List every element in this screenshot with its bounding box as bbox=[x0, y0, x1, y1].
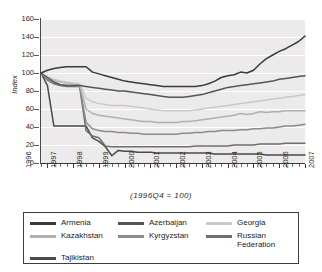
x-tick-minor bbox=[221, 164, 222, 167]
y-tick bbox=[34, 37, 39, 38]
y-tick-label-wrap: 160 bbox=[8, 15, 34, 23]
legend-label: Kyrgyzstan bbox=[149, 231, 189, 241]
legend-swatch-icon bbox=[206, 235, 232, 238]
y-tick bbox=[34, 127, 39, 128]
legend-swatch-icon bbox=[30, 222, 56, 225]
y-axis-line bbox=[40, 18, 41, 164]
x-tick-label: 1998 bbox=[76, 151, 84, 168]
y-tick-label-wrap: 140 bbox=[8, 33, 34, 41]
x-tick-label: 2000 bbox=[128, 151, 136, 168]
x-tick-minor bbox=[60, 164, 61, 167]
series-line bbox=[41, 73, 305, 147]
legend-label: Tajikistan bbox=[61, 253, 94, 263]
chart-plot-container: 020406080100120140160 Index 199619971998… bbox=[0, 0, 322, 205]
x-tick-label: 1997 bbox=[50, 151, 58, 168]
chart-legend: ArmeniaAzerbaijanGeorgiaKazakhstanKyrgyz… bbox=[23, 212, 299, 264]
y-tick bbox=[34, 163, 39, 164]
legend-item[interactable]: Armenia bbox=[30, 218, 118, 228]
x-tick-label: 1996 bbox=[25, 151, 33, 168]
x-tick-minor bbox=[86, 164, 87, 167]
legend-grid: ArmeniaAzerbaijanGeorgiaKazakhstanKyrgyz… bbox=[30, 218, 296, 265]
y-tick-label: 160 bbox=[10, 15, 34, 23]
y-axis-title: Index bbox=[10, 65, 19, 105]
x-tick-label: 2007 bbox=[308, 151, 316, 168]
y-tick-label-wrap: 20 bbox=[8, 141, 34, 149]
y-tick-label: 20 bbox=[10, 141, 34, 149]
x-tick-minor bbox=[163, 164, 164, 167]
x-tick-label: 1999 bbox=[102, 151, 110, 168]
legend-item[interactable]: Georgia bbox=[206, 218, 294, 228]
x-tick-minor bbox=[138, 164, 139, 167]
y-tick-label: 140 bbox=[10, 33, 34, 41]
x-tick-label: 2005 bbox=[256, 151, 264, 168]
y-tick bbox=[34, 109, 39, 110]
x-tick-minor bbox=[189, 164, 190, 167]
x-tick-minor bbox=[241, 164, 242, 167]
x-tick-minor bbox=[266, 164, 267, 167]
legend-item[interactable]: Kyrgyzstan bbox=[118, 231, 206, 250]
x-tick-minor bbox=[247, 164, 248, 167]
x-tick-minor bbox=[299, 164, 300, 167]
x-tick-minor bbox=[112, 164, 113, 167]
x-tick-minor bbox=[144, 164, 145, 167]
legend-row: KazakhstanKyrgyzstanRussianFederation bbox=[30, 231, 296, 253]
y-tick bbox=[34, 145, 39, 146]
chart-figure: 020406080100120140160 Index 199619971998… bbox=[0, 0, 322, 272]
legend-swatch-icon bbox=[118, 222, 144, 225]
y-tick bbox=[34, 73, 39, 74]
legend-item[interactable]: RussianFederation bbox=[206, 231, 294, 250]
legend-swatch-icon bbox=[206, 222, 232, 225]
y-tick-label-wrap: 60 bbox=[8, 105, 34, 113]
legend-item[interactable]: Azerbaijan bbox=[118, 218, 206, 228]
y-tick bbox=[34, 55, 39, 56]
legend-item[interactable]: Tajikistan bbox=[30, 253, 118, 263]
y-tick-label-wrap: 40 bbox=[8, 123, 34, 131]
x-tick-minor bbox=[93, 164, 94, 167]
legend-row: Tajikistan bbox=[30, 253, 296, 266]
y-tick-label-wrap: 120 bbox=[8, 51, 34, 59]
x-tick-minor bbox=[170, 164, 171, 167]
y-tick bbox=[34, 91, 39, 92]
x-axis-caption: (1996Q4 = 100) bbox=[0, 191, 322, 200]
legend-label: Armenia bbox=[61, 218, 91, 228]
legend-swatch-icon bbox=[30, 257, 56, 260]
x-tick-label: 2001 bbox=[153, 151, 161, 168]
y-tick-label: 60 bbox=[10, 105, 34, 113]
x-tick-minor bbox=[67, 164, 68, 167]
legend-row: ArmeniaAzerbaijanGeorgia bbox=[30, 218, 296, 231]
x-tick-label: 2002 bbox=[179, 151, 187, 168]
x-tick-minor bbox=[41, 164, 42, 167]
x-tick-label: 2006 bbox=[282, 151, 290, 168]
x-tick-minor bbox=[118, 164, 119, 167]
x-tick-label: 2004 bbox=[231, 151, 239, 168]
legend-item[interactable]: Kazakhstan bbox=[30, 231, 118, 250]
y-tick bbox=[34, 19, 39, 20]
y-tick-label: 40 bbox=[10, 123, 34, 131]
x-tick-minor bbox=[273, 164, 274, 167]
legend-swatch-icon bbox=[118, 235, 144, 238]
x-tick-minor bbox=[215, 164, 216, 167]
x-tick-label: 2003 bbox=[205, 151, 213, 168]
legend-label: Georgia bbox=[237, 218, 265, 228]
legend-label: Azerbaijan bbox=[149, 218, 187, 228]
x-tick-minor bbox=[292, 164, 293, 167]
legend-label: Kazakhstan bbox=[61, 231, 103, 241]
legend-label: RussianFederation bbox=[237, 231, 275, 250]
legend-swatch-icon bbox=[30, 235, 56, 238]
series-line bbox=[41, 36, 305, 86]
x-tick-minor bbox=[196, 164, 197, 167]
y-tick-label: 120 bbox=[10, 51, 34, 59]
